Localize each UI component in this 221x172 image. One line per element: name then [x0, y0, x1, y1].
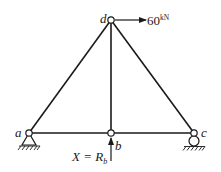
- joint-a: [26, 130, 32, 136]
- node-label-a: a: [15, 125, 22, 140]
- redundant-label: X = Rb: [71, 149, 107, 166]
- member-a-d: [29, 20, 111, 133]
- joint-b: [108, 130, 114, 136]
- joint-c: [191, 130, 197, 136]
- node-label-b: b: [115, 138, 122, 153]
- node-label-d: d: [100, 11, 107, 26]
- truss-members: [29, 20, 194, 133]
- truss-diagram: d a c b 60kN X = Rb: [0, 0, 221, 172]
- member-c-d: [111, 20, 194, 133]
- joint-d: [108, 17, 114, 23]
- load-value: 60kN: [147, 13, 170, 28]
- node-label-c: c: [201, 125, 207, 140]
